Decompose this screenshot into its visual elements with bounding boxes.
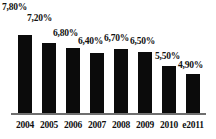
bar-2007	[90, 53, 104, 113]
bar-2005	[42, 43, 56, 113]
bar-e2011	[186, 74, 200, 113]
bar-chart: 7,80% 7,20% 6,80% 6,40% 6,70% 6,50% 5,50…	[0, 0, 216, 139]
plot-area: 7,80% 7,20% 6,80% 6,40% 6,70% 6,50% 5,50…	[0, 0, 216, 115]
value-label-2008: 6,70%	[104, 33, 129, 43]
x-axis-labels: 2004 2005 2006 2007 2008 2009 2010 e2011	[0, 120, 216, 139]
value-label-2010: 5,50%	[155, 51, 180, 61]
value-label-2007: 6,40%	[78, 36, 103, 46]
value-label-2009: 6,50%	[130, 36, 155, 46]
bar-2004	[18, 35, 32, 113]
value-label-2006: 6,80%	[53, 28, 78, 38]
value-label-e2011: 4,90%	[178, 60, 203, 70]
value-label-2004: 7,80%	[2, 2, 27, 12]
bar-2009	[138, 52, 152, 113]
bar-2006	[66, 48, 80, 113]
x-tick-e2011: e2011	[176, 120, 210, 130]
value-label-2005: 7,20%	[27, 13, 52, 23]
bar-2008	[114, 49, 128, 113]
bar-2010	[162, 66, 176, 113]
x-axis-line	[11, 113, 206, 115]
